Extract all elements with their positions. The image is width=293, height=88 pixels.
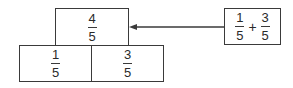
- denominator: 5: [124, 66, 131, 79]
- fraction-part-1: 1 5: [51, 48, 60, 79]
- fraction-bar: [235, 26, 244, 27]
- denominator: 5: [236, 29, 243, 42]
- bottom-box-part-2: 3 5: [91, 45, 164, 82]
- bottom-box-part-1: 1 5: [19, 45, 92, 82]
- fraction-addend-1: 1 5: [235, 11, 244, 42]
- numerator: 3: [261, 11, 268, 25]
- numerator: 4: [88, 12, 95, 26]
- fraction-bar: [51, 63, 60, 64]
- fraction-total: 4 5: [88, 12, 97, 43]
- fraction-addend-2: 3 5: [261, 11, 270, 42]
- denominator: 5: [52, 66, 59, 79]
- denominator: 5: [261, 29, 268, 42]
- plus-operator: +: [248, 19, 256, 35]
- numerator: 1: [236, 11, 243, 25]
- arrowhead-icon: [129, 24, 137, 30]
- numerator: 1: [52, 48, 59, 62]
- sum-expression-box: 1 5 + 3 5: [224, 8, 281, 45]
- top-box-total: 4 5: [55, 8, 129, 46]
- numerator: 3: [124, 48, 131, 62]
- fraction-part-2: 3 5: [123, 48, 132, 79]
- fraction-bar: [261, 26, 270, 27]
- denominator: 5: [88, 30, 95, 43]
- fraction-bar: [123, 63, 132, 64]
- fraction-bar: [88, 27, 97, 28]
